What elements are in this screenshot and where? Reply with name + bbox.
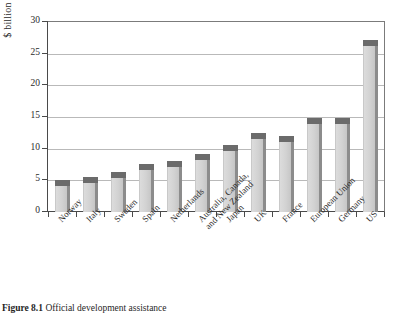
bar-top-cap	[167, 161, 182, 167]
bar-top-cap	[307, 118, 322, 124]
bar-side	[263, 138, 266, 212]
bar-side	[319, 123, 322, 212]
bar	[363, 45, 378, 212]
bar-top-cap	[139, 164, 154, 170]
bar	[251, 138, 266, 212]
figure-official-development-assistance: $ billion 051015202530 NorwayItalySweden…	[0, 0, 409, 316]
y-tick-label-20: 20	[2, 79, 40, 89]
y-tick-0	[42, 211, 48, 212]
bar-front	[167, 166, 179, 212]
bar-series	[48, 22, 384, 212]
bar-top-cap	[279, 136, 294, 142]
bar-top-cap	[195, 154, 210, 160]
bar-front	[251, 138, 263, 212]
bar-top-cap	[251, 133, 266, 139]
y-tick-label-25: 25	[2, 48, 40, 58]
y-tick-30	[42, 21, 48, 22]
bar-front	[307, 123, 319, 212]
bar-front	[279, 141, 291, 212]
bar-top-cap	[223, 145, 238, 151]
y-tick-10	[42, 148, 48, 149]
y-tick-label-5: 5	[2, 174, 40, 184]
y-tick-15	[42, 116, 48, 117]
bar-front	[363, 45, 375, 212]
y-tick-5	[42, 179, 48, 180]
x-axis-labels: NorwayItalySwedenSpainNetherlandsAustral…	[0, 217, 409, 295]
y-tick-25	[42, 53, 48, 54]
bar-top-cap	[363, 40, 378, 46]
bar-top-cap	[55, 180, 70, 186]
figure-caption: Figure 8.1 Official development assistan…	[2, 303, 407, 314]
bar-top-cap	[111, 172, 126, 178]
y-tick-label-15: 15	[2, 111, 40, 121]
bar-side	[347, 123, 350, 212]
bar	[279, 141, 294, 212]
y-tick-20	[42, 84, 48, 85]
y-axis-labels: 051015202530	[0, 0, 40, 212]
y-tick-label-30: 30	[2, 16, 40, 26]
bar-side	[375, 45, 378, 212]
bar-top-cap	[83, 177, 98, 183]
figure-caption-text: Official development assistance	[45, 303, 166, 313]
bar-side	[291, 141, 294, 212]
figure-number: Figure 8.1	[2, 303, 43, 313]
bar-front	[139, 169, 151, 212]
bar	[307, 123, 322, 212]
y-tick-label-10: 10	[2, 143, 40, 153]
bar-top-cap	[335, 118, 350, 124]
bar-front	[195, 159, 207, 212]
y-tick-label-0: 0	[2, 206, 40, 216]
